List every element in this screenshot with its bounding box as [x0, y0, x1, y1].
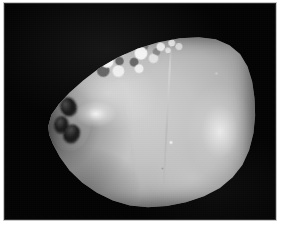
coconut-body	[44, 33, 256, 209]
photo-frame	[3, 2, 277, 221]
husk-patch	[86, 30, 171, 92]
surface-blemish-center	[169, 140, 173, 144]
coconut-seam-main	[162, 40, 172, 202]
germination-pore-top	[59, 96, 79, 117]
image-caption: Dehusked coconut photographed against a …	[0, 0, 1, 1]
coconut-seam-secondary	[125, 93, 138, 202]
screenshot-root: Dehusked coconut photographed against a …	[0, 0, 283, 228]
surface-blemish-lower	[161, 167, 164, 171]
coconut-subject	[44, 33, 256, 209]
surface-blemish-upper-right	[214, 72, 219, 76]
